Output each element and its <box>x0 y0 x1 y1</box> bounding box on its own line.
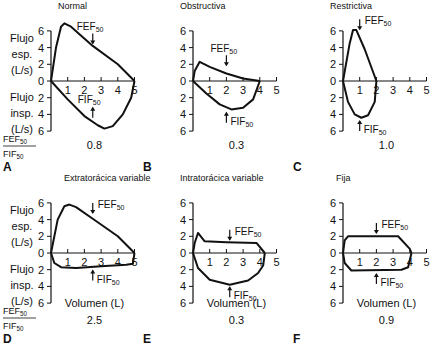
panel-letter: C <box>293 160 302 174</box>
y-tick-label: 4 <box>38 280 44 292</box>
x-tick-label: 5 <box>273 256 279 268</box>
figure-canvas: Normal642024612345FEF50FIF500.8AObstruct… <box>0 0 436 350</box>
inspiratory-curve <box>51 253 135 268</box>
panel-letter: A <box>3 160 12 174</box>
y-tick-label: 4 <box>180 280 186 292</box>
y-tick-label: 6 <box>330 197 336 209</box>
y-tick-label: 0 <box>330 75 336 87</box>
expiratory-curve <box>343 236 411 253</box>
fif-label: FIF50 <box>364 124 387 136</box>
ratio-value: 0.3 <box>229 139 244 151</box>
x-tick-label: 2 <box>81 256 87 268</box>
row-label-insp: insp. <box>10 279 33 291</box>
y-tick-label: 4 <box>38 214 44 226</box>
ratio-value: 2.5 <box>87 314 102 326</box>
y-tick-label: 4 <box>330 108 336 120</box>
fif-arrowhead-icon <box>357 120 362 124</box>
panel-d: Extratorácica variable642024612345FEF50F… <box>3 173 151 346</box>
y-tick-label: 6 <box>38 197 44 209</box>
x-tick-label: 5 <box>273 84 279 96</box>
y-tick-label: 2 <box>180 92 186 104</box>
y-tick-label: 4 <box>330 280 336 292</box>
x-axis-label: Volumen (L) <box>207 297 266 309</box>
panel-title: Normal <box>58 1 87 11</box>
ratio-value: 0.3 <box>229 314 244 326</box>
x-tick-label: 1 <box>65 256 71 268</box>
ratio-value: 1.0 <box>379 139 394 151</box>
y-tick-label: 6 <box>330 125 336 137</box>
panel-a: Normal642024612345FEF50FIF500.8A <box>3 1 138 174</box>
y-tick-label: 0 <box>38 247 44 259</box>
row-label-exp: Flujo <box>10 32 34 44</box>
y-tick-label: 2 <box>180 58 186 70</box>
y-tick-label: 0 <box>330 247 336 259</box>
y-tick-label: 4 <box>330 42 336 54</box>
x-tick-label: 3 <box>98 84 104 96</box>
flow-volume-loops-figure: Normal642024612345FEF50FIF500.8AObstruct… <box>0 0 436 350</box>
fif-label: FIF50 <box>380 277 403 289</box>
y-tick-label: 4 <box>38 42 44 54</box>
fef-label: FEF50 <box>98 199 125 211</box>
y-tick-label: 2 <box>38 264 44 276</box>
y-tick-label: 2 <box>38 230 44 242</box>
y-tick-label: 4 <box>180 42 186 54</box>
y-tick-label: 2 <box>38 92 44 104</box>
fef-arrowhead-icon <box>374 230 379 234</box>
x-tick-label: 5 <box>423 84 429 96</box>
row-label-exp: esp. <box>12 220 33 232</box>
fif-arrowhead-icon <box>90 107 95 111</box>
panel-title: Extratorácica variable <box>64 173 151 183</box>
fef-arrowhead-icon <box>90 210 95 214</box>
x-tick-label: 1 <box>357 256 363 268</box>
y-tick-label: 4 <box>38 108 44 120</box>
fef-label: FEF50 <box>210 43 237 55</box>
row-label-exp: (L/s) <box>11 64 33 76</box>
y-tick-label: 6 <box>330 297 336 309</box>
fef-arrowhead-icon <box>224 62 229 66</box>
panel-title: Fija <box>336 173 351 183</box>
x-tick-label: 1 <box>65 84 71 96</box>
x-tick-label: 3 <box>240 84 246 96</box>
fif-arrowhead-icon <box>90 270 95 274</box>
ratio-numerator: FEF50 <box>3 134 28 145</box>
x-tick-label: 3 <box>390 84 396 96</box>
x-tick-label: 2 <box>223 84 229 96</box>
fif-arrowhead-icon <box>374 273 379 277</box>
y-tick-label: 6 <box>180 197 186 209</box>
x-tick-label: 4 <box>115 84 121 96</box>
fef-arrowhead-icon <box>227 237 232 241</box>
y-tick-label: 6 <box>330 25 336 37</box>
x-tick-label: 4 <box>407 84 413 96</box>
y-tick-label: 6 <box>38 297 44 309</box>
y-tick-label: 2 <box>330 58 336 70</box>
y-tick-label: 0 <box>180 75 186 87</box>
x-tick-label: 5 <box>423 256 429 268</box>
y-tick-label: 6 <box>180 125 186 137</box>
ratio-denominator: FIF50 <box>3 321 24 332</box>
panel-f: Fija642024612345FEF50FIF50Volumen (L)0.9… <box>293 173 430 346</box>
panel-c: Restrictiva642024612345FEF50FIF501.0C <box>293 1 430 174</box>
row-label-exp: esp. <box>12 48 33 60</box>
ratio-value: 0.9 <box>379 314 394 326</box>
panel-title: Restrictiva <box>330 1 372 11</box>
y-tick-label: 2 <box>180 230 186 242</box>
panel-title: Obstructiva <box>180 1 226 11</box>
x-tick-label: 2 <box>373 256 379 268</box>
ratio-value: 0.8 <box>87 139 102 151</box>
y-tick-label: 6 <box>38 25 44 37</box>
fef-label: FEF50 <box>381 219 408 231</box>
fif-label: FIF50 <box>230 116 253 128</box>
fef-label: FEF50 <box>235 226 262 238</box>
x-axis-label: Volumen (L) <box>357 297 416 309</box>
y-tick-label: 2 <box>330 92 336 104</box>
x-tick-label: 1 <box>207 256 213 268</box>
x-tick-label: 1 <box>357 84 363 96</box>
fef-label: FEF50 <box>365 15 392 27</box>
x-axis-label: Volumen (L) <box>65 297 124 309</box>
row-label-insp: insp. <box>10 107 33 119</box>
y-tick-label: 6 <box>38 125 44 137</box>
y-tick-label: 6 <box>180 25 186 37</box>
x-tick-label: 2 <box>223 256 229 268</box>
x-tick-label: 3 <box>240 256 246 268</box>
y-tick-label: 0 <box>38 75 44 87</box>
